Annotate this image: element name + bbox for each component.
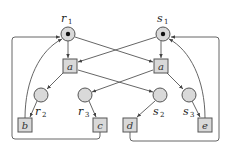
label-r3: r	[78, 105, 84, 118]
svg-text:a: a	[67, 61, 73, 72]
arc-a-right-s3	[166, 72, 183, 89]
arc-a-left-s2	[78, 70, 153, 92]
label-s2: s	[153, 105, 159, 118]
svg-text:c: c	[97, 120, 103, 131]
transition-b: b	[18, 118, 32, 132]
svg-text:1: 1	[68, 18, 72, 26]
transition-a-left: a	[63, 59, 77, 73]
svg-text:e: e	[202, 120, 208, 131]
place-s2: s 2	[153, 88, 167, 119]
svg-text:1: 1	[164, 18, 168, 26]
arc-r1-a-right	[75, 37, 153, 62]
transition-c: c	[93, 118, 107, 132]
svg-text:3: 3	[190, 111, 194, 119]
arc-r3-c	[89, 101, 96, 117]
token-icon	[161, 32, 165, 36]
petri-net-svg: r 1 s 1 r 2 r 3 s 2 s 3 a a b c	[0, 0, 233, 147]
transition-a-right: a	[154, 59, 168, 73]
svg-text:b: b	[22, 120, 28, 131]
transition-d: d	[123, 118, 137, 132]
svg-text:2: 2	[42, 111, 46, 119]
arc-a-right-r3	[92, 70, 153, 92]
label-s1: s	[157, 12, 163, 25]
token-icon	[66, 32, 70, 36]
place-r1: r 1	[61, 12, 75, 41]
place-s3: s 3	[182, 88, 196, 119]
label-r1: r	[61, 12, 67, 25]
arc-b-r1	[25, 39, 62, 118]
arc-a-left-r2	[47, 72, 64, 89]
label-r2: r	[35, 105, 41, 118]
svg-text:d: d	[127, 120, 133, 131]
svg-text:a: a	[158, 61, 164, 72]
label-s3: s	[183, 105, 189, 118]
arc-s1-a-left	[78, 37, 156, 62]
svg-text:2: 2	[160, 111, 164, 119]
transition-e: e	[198, 118, 212, 132]
place-s1: s 1	[156, 12, 170, 41]
petri-net-diagram: r 1 s 1 r 2 r 3 s 2 s 3 a a b c	[0, 0, 233, 147]
svg-text:3: 3	[85, 111, 89, 119]
